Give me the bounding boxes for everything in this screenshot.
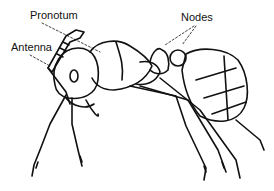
label-nodes: Nodes [181, 12, 213, 23]
nodes-shape [150, 49, 186, 74]
leader-lines [30, 23, 196, 66]
label-antenna: Antenna [11, 42, 52, 53]
ant-illustration [0, 0, 274, 191]
thorax-shape [90, 41, 160, 90]
gaster-shape [182, 49, 247, 121]
label-pronotum: Pronotum [30, 10, 78, 21]
